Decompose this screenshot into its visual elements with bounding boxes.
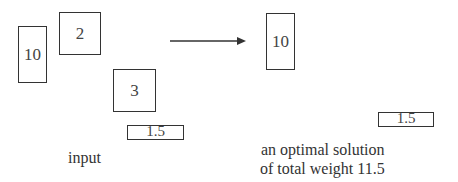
input-rect-10-label: 10 bbox=[24, 45, 41, 65]
input-rect-2-label: 2 bbox=[76, 24, 85, 44]
input-rect-1-5: 1.5 bbox=[127, 125, 184, 140]
input-rect-3: 3 bbox=[113, 69, 156, 112]
input-rect-3-label: 3 bbox=[130, 81, 139, 101]
input-rect-10: 10 bbox=[18, 26, 47, 83]
input-rect-2: 2 bbox=[59, 12, 101, 55]
output-label-line2: of total weight 11.5 bbox=[260, 159, 385, 178]
arrow-right-icon bbox=[165, 34, 249, 48]
input-label: input bbox=[68, 148, 101, 167]
output-rect-10: 10 bbox=[266, 13, 295, 70]
output-label-line1: an optimal solution bbox=[261, 140, 385, 159]
output-rect-1-5: 1.5 bbox=[378, 112, 434, 127]
output-rect-10-label: 10 bbox=[272, 32, 289, 52]
input-rect-1-5-label: 1.5 bbox=[146, 124, 165, 139]
output-rect-1-5-label: 1.5 bbox=[397, 111, 416, 126]
